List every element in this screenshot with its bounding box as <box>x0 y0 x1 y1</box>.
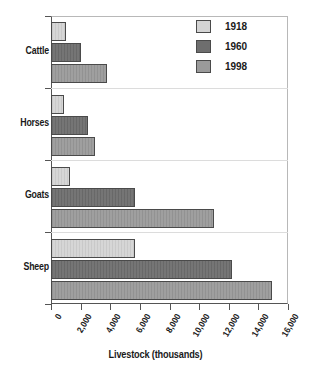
x-axis-tick-label: 0 <box>35 312 63 351</box>
bar-cattle-1918 <box>51 22 66 41</box>
bar-cattle-1960 <box>51 43 81 62</box>
bar-goats-1960 <box>51 188 135 207</box>
x-axis-tick <box>258 304 259 310</box>
livestock-bar-chart: CattleHorsesGoatsSheep 02,0004,0006,0008… <box>0 0 311 369</box>
legend-item-1998: 1998 <box>196 58 284 75</box>
bar-horses-1960 <box>51 116 88 135</box>
category-group <box>51 232 288 304</box>
legend-swatch-1960 <box>196 40 211 53</box>
x-axis-tick <box>81 304 82 310</box>
x-axis-tick-label: 8,000 <box>154 312 182 351</box>
x-axis-tick-label: 6,000 <box>124 312 152 351</box>
x-axis-title: Livestock (thousands) <box>12 349 298 360</box>
x-axis-tick <box>51 304 52 310</box>
x-axis-tick-label: 14,000 <box>243 312 271 351</box>
legend-label-1998: 1998 <box>225 61 247 72</box>
bar-horses-1998 <box>51 137 95 156</box>
category-label-sheep: Sheep <box>0 261 49 272</box>
legend-label-1918: 1918 <box>225 21 247 32</box>
chart-legend: 191819601998 <box>196 18 284 78</box>
x-axis-tick <box>229 304 230 310</box>
x-axis-tick-label: 12,000 <box>213 312 241 351</box>
category-label-goats: Goats <box>0 189 49 200</box>
x-axis-tick <box>199 304 200 310</box>
category-label-horses: Horses <box>0 117 49 128</box>
x-axis-tick <box>170 304 171 310</box>
legend-swatch-1918 <box>196 20 211 33</box>
category-label-cattle: Cattle <box>0 45 49 56</box>
x-axis-tick-label: 2,000 <box>65 312 93 351</box>
y-axis-tick <box>45 232 51 233</box>
legend-item-1960: 1960 <box>196 38 284 55</box>
category-group <box>51 88 288 160</box>
bar-cattle-1998 <box>51 64 107 83</box>
x-axis-tick <box>288 304 289 310</box>
x-axis-tick-label: 16,000 <box>272 312 300 351</box>
bar-sheep-1918 <box>51 239 135 258</box>
bar-sheep-1960 <box>51 260 232 279</box>
bar-sheep-1998 <box>51 281 272 300</box>
y-axis-tick <box>45 160 51 161</box>
x-axis-tick-label: 10,000 <box>183 312 211 351</box>
legend-item-1918: 1918 <box>196 18 284 35</box>
x-axis-tick <box>110 304 111 310</box>
legend-label-1960: 1960 <box>225 41 247 52</box>
y-axis-tick <box>45 16 51 17</box>
category-group <box>51 160 288 232</box>
legend-swatch-1998 <box>196 60 211 73</box>
x-axis-tick <box>140 304 141 310</box>
x-axis-tick-label: 4,000 <box>94 312 122 351</box>
bar-goats-1998 <box>51 209 214 228</box>
y-axis-tick <box>45 88 51 89</box>
bar-horses-1918 <box>51 95 64 114</box>
bar-goats-1918 <box>51 167 70 186</box>
